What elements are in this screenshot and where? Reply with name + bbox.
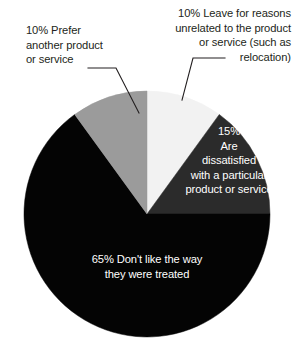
slice-label-treated: 65% Don't like the way they were treated xyxy=(47,252,247,281)
pie-chart: 10% Prefer another product or service 10… xyxy=(0,0,294,358)
callout-leave-unrelated-reasons: 10% Leave for reasons unrelated to the p… xyxy=(131,6,291,64)
slice-label-dissatisfied: 15% Are dissatisfied with a particular p… xyxy=(166,124,292,197)
callout-prefer-another-product: 10% Prefer another product or service xyxy=(26,23,146,67)
